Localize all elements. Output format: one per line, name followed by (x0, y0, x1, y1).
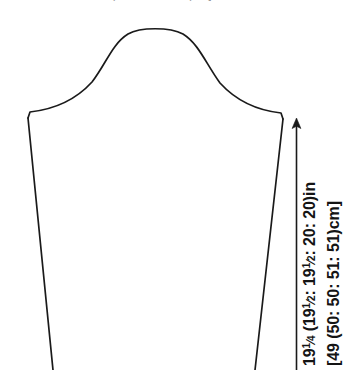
imperial-frac-3-numerator: 1 (301, 263, 312, 268)
imperial-whole-1: 19 (301, 348, 318, 366)
imperial-frac-3-denominator: 2 (306, 256, 317, 261)
imperial-frac-1-bar: ⁄ (304, 341, 318, 343)
imperial-frac-2-denominator: 2 (306, 296, 317, 301)
imperial-mid-text: : 19 (301, 268, 318, 295)
dimension-label-metric: [49 (50: 50: 51: 51)cm] (325, 201, 342, 366)
imperial-frac-2-bar: ⁄ (304, 301, 318, 303)
imperial-frac-3-bar: ⁄ (304, 261, 318, 263)
sleeve-outline-path (28, 29, 283, 119)
imperial-frac-1-denominator: 4 (306, 336, 317, 341)
dimension-label-imperial: 191⁄4 (191⁄2: 191⁄2: 20: 20)in (301, 182, 320, 366)
sleeve-left-seam (28, 118, 53, 370)
imperial-frac-1-numerator: 1 (301, 343, 312, 348)
imperial-tail-text: : 20: 20)in (301, 182, 318, 256)
imperial-frac-2-numerator: 1 (301, 303, 312, 308)
sleeve-schematic-figure: …in (… : … : … : …)cm] 191⁄4 (191⁄2: 191… (0, 0, 358, 370)
imperial-open-paren: (19 (301, 308, 318, 335)
sleeve-right-seam (255, 119, 283, 370)
dimension-label-stack: 191⁄4 (191⁄2: 191⁄2: 20: 20)in [49 (50: … (303, 116, 355, 366)
